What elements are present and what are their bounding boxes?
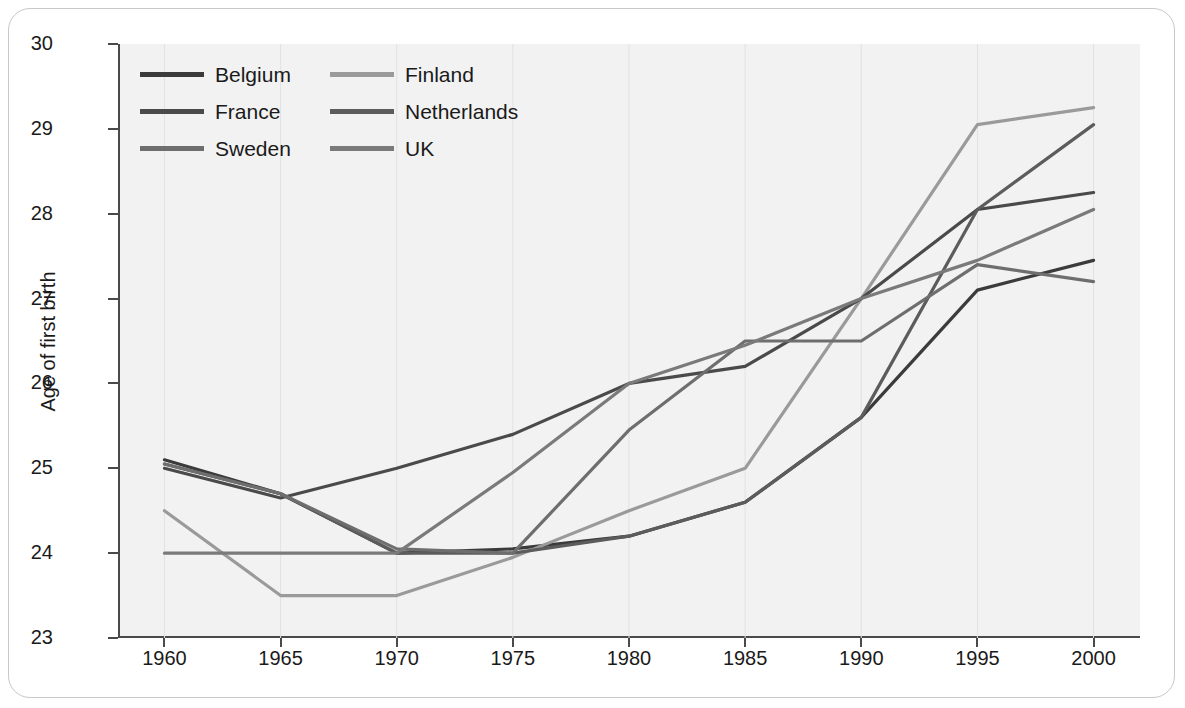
legend-entry-sweden[interactable]: Sweden	[140, 137, 330, 161]
x-tick-mark	[860, 638, 862, 647]
legend-swatch-icon	[140, 72, 204, 77]
x-tick-label: 1975	[473, 648, 553, 668]
x-tick-label: 1965	[241, 648, 321, 668]
x-tick-mark	[396, 638, 398, 647]
y-tick-mark	[108, 637, 118, 639]
legend-swatch-icon	[330, 146, 394, 151]
legend-swatch-icon	[330, 109, 394, 114]
y-tick-mark	[108, 467, 118, 469]
legend-label: Netherlands	[405, 100, 518, 124]
legend-label: UK	[405, 137, 434, 161]
x-tick-label: 1970	[357, 648, 437, 668]
y-tick-label: 26	[13, 372, 53, 392]
y-tick-label: 23	[13, 627, 53, 647]
legend-swatch-icon	[330, 72, 394, 77]
x-tick-label: 1995	[937, 648, 1017, 668]
x-tick-mark	[512, 638, 514, 647]
x-tick-label: 1990	[821, 648, 901, 668]
legend-label: Finland	[405, 63, 474, 87]
x-tick-label: 1985	[705, 648, 785, 668]
x-tick-mark	[744, 638, 746, 647]
y-tick-label: 28	[13, 203, 53, 223]
y-tick-label: 27	[13, 288, 53, 308]
legend-label: Belgium	[215, 63, 291, 87]
y-tick-label: 24	[13, 542, 53, 562]
legend-entry-france[interactable]: France	[140, 100, 330, 124]
legend-entry-uk[interactable]: UK	[330, 137, 520, 161]
legend-entry-finland[interactable]: Finland	[330, 63, 520, 87]
x-tick-label: 1960	[124, 648, 204, 668]
x-tick-mark	[1093, 638, 1095, 647]
y-tick-label: 30	[13, 33, 53, 53]
y-tick-mark	[108, 552, 118, 554]
x-tick-label: 2000	[1054, 648, 1134, 668]
x-tick-label: 1980	[589, 648, 669, 668]
y-tick-label: 25	[13, 457, 53, 477]
y-tick-mark	[108, 213, 118, 215]
legend-label: Sweden	[215, 137, 291, 161]
legend-swatch-icon	[140, 109, 204, 114]
y-tick-mark	[108, 382, 118, 384]
x-tick-mark	[976, 638, 978, 647]
x-tick-mark	[280, 638, 282, 647]
y-tick-label: 29	[13, 118, 53, 138]
y-tick-mark	[108, 128, 118, 130]
y-tick-mark	[108, 298, 118, 300]
legend: BelgiumFinlandFranceNetherlandsSwedenUK	[140, 56, 540, 167]
y-tick-mark	[108, 43, 118, 45]
legend-entry-belgium[interactable]: Belgium	[140, 63, 330, 87]
x-tick-mark	[628, 638, 630, 647]
legend-entry-netherlands[interactable]: Netherlands	[330, 100, 520, 124]
legend-swatch-icon	[140, 146, 204, 151]
legend-label: France	[215, 100, 280, 124]
line-chart: Age of first birth 2324252627282930 1960…	[0, 0, 1185, 708]
x-tick-mark	[163, 638, 165, 647]
